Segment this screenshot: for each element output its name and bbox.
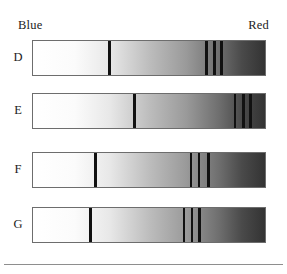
absorption-band: [207, 153, 210, 187]
spectrum-bar-g: [32, 207, 266, 243]
absorption-band: [242, 94, 245, 128]
spectrum-bar-d: [32, 40, 266, 76]
absorption-band: [220, 41, 223, 75]
spectrum-label-f: F: [10, 162, 26, 176]
spectrum-row-f: F: [0, 152, 287, 190]
spectrum-label-d: D: [10, 50, 26, 64]
spectrum-row-g: G: [0, 207, 287, 245]
spectrum-gradient: [33, 208, 265, 242]
spectrum-gradient: [33, 153, 265, 187]
absorption-band: [89, 208, 92, 242]
absorption-band: [191, 208, 194, 242]
spectrum-gradient: [33, 94, 265, 128]
spectrum-gradient: [33, 41, 265, 75]
absorption-band: [234, 94, 237, 128]
spectrum-row-d: D: [0, 40, 287, 78]
absorption-band: [198, 153, 201, 187]
absorption-band: [213, 41, 216, 75]
bottom-divider: [4, 264, 283, 265]
absorption-band: [133, 94, 136, 128]
red-end-label: Red: [248, 18, 269, 32]
absorption-band: [249, 94, 252, 128]
spectrum-bar-e: [32, 93, 266, 129]
absorption-band: [205, 41, 208, 75]
absorption-band: [94, 153, 97, 187]
spectra-figure: Blue Red DEFG: [0, 0, 287, 274]
spectrum-bar-f: [32, 152, 266, 188]
blue-end-label: Blue: [18, 18, 42, 32]
absorption-band: [190, 153, 193, 187]
absorption-band: [183, 208, 186, 242]
spectrum-label-g: G: [10, 217, 26, 231]
absorption-band: [108, 41, 111, 75]
spectrum-row-e: E: [0, 93, 287, 131]
spectrum-label-e: E: [10, 103, 26, 117]
absorption-band: [198, 208, 201, 242]
